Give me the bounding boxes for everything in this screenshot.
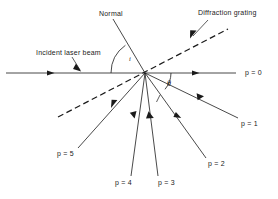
diffraction-grating-label: Diffraction grating: [198, 9, 257, 16]
zero-order-arrowhead: [192, 70, 200, 75]
normal-line: [113, 19, 145, 73]
grating-leader-line: [193, 20, 208, 36]
grating-leader-arrowhead: [190, 30, 197, 38]
ray-order-5-arrowhead: [111, 100, 117, 108]
order-5-label: p = 5: [57, 150, 74, 157]
normal-line-group: [113, 19, 145, 73]
ray-order-5: [78, 73, 145, 148]
normal-label: Normal: [99, 10, 123, 17]
ray-order-4-arrowhead: [130, 111, 137, 119]
ray-order-1: [145, 73, 238, 118]
order-3-label: p = 3: [158, 179, 175, 186]
order-4-label: p = 4: [115, 179, 132, 186]
angle-arcs: [111, 45, 171, 102]
incident-laser-beam-label: Incident laser beam: [36, 49, 101, 56]
diagram-canvas: Normal Diffraction grating Incident lase…: [0, 0, 278, 199]
incident-beam-axis: [6, 70, 236, 75]
order-2-label: p = 2: [208, 160, 225, 167]
diffraction-angle-label: θ: [167, 80, 171, 88]
angle-of-incidence-label: i: [129, 56, 131, 63]
diffraction-angle-tick: [157, 95, 161, 102]
ray-order-1-arrowhead: [197, 93, 204, 100]
diffraction-grating-figure: [0, 0, 278, 199]
incident-beam-arrowhead: [47, 70, 55, 75]
order-0-label: p = 0: [245, 69, 262, 76]
ray-order-4: [131, 73, 145, 176]
ray-order-2-arrowhead: [173, 112, 181, 118]
angle-of-incidence-arc: [111, 45, 125, 73]
order-1-label: p = 1: [241, 120, 258, 127]
